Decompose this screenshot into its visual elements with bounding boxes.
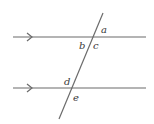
angle-label-b: b (79, 40, 85, 51)
angle-label-d: d (64, 76, 70, 87)
transversal-line (59, 13, 103, 119)
angle-label-c: c (93, 40, 99, 51)
angle-label-e: e (73, 92, 79, 103)
angle-label-a: a (101, 24, 107, 35)
parallel-lines-diagram: a b c d e (0, 0, 154, 124)
